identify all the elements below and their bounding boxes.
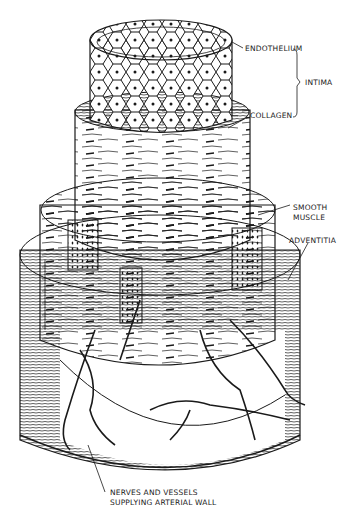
label-smooth-muscle: SMOOTH MUSCLE	[293, 203, 327, 223]
label-collagen: COLLAGEN	[250, 111, 292, 121]
label-smooth-muscle-line2: MUSCLE	[293, 213, 327, 223]
label-intima: INTIMA	[305, 78, 332, 88]
endothelium-layer	[90, 20, 232, 133]
label-nerves-line2: SUPPLYING ARTERIAL WALL	[110, 498, 216, 508]
label-nerves-line1: NERVES AND VESSELS	[110, 488, 216, 498]
label-endothelium: ENDOTHELIUM	[245, 44, 303, 54]
label-adventitia: ADVENTITIA	[289, 236, 336, 246]
label-smooth-muscle-line1: SMOOTH	[293, 203, 327, 213]
label-nerves-and-vessels: NERVES AND VESSELS SUPPLYING ARTERIAL WA…	[110, 488, 216, 508]
